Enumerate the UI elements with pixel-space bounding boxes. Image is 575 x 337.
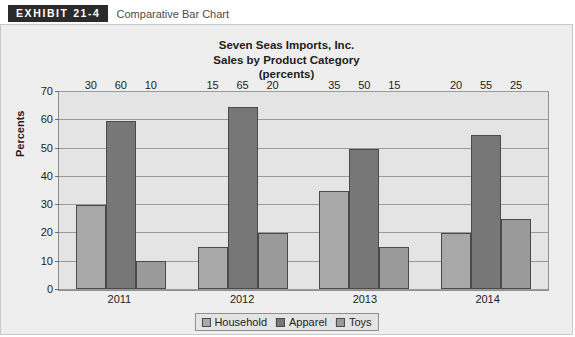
bar-slot: 10 — [136, 93, 166, 289]
plot-area-wrapper: 706050403020100 306010156520355015205525 — [58, 91, 549, 291]
y-tick-mark — [55, 232, 59, 233]
bar-group: 306010 — [60, 93, 182, 289]
legend-item[interactable]: Apparel — [276, 316, 327, 328]
bar[interactable]: 15 — [198, 247, 228, 289]
bar[interactable]: 55 — [471, 135, 501, 289]
bar[interactable]: 35 — [319, 191, 349, 289]
bar-slot: 20 — [441, 93, 471, 289]
bar[interactable]: 20 — [441, 233, 471, 289]
y-tick-label: 40 — [41, 170, 53, 182]
bar-value-label: 10 — [145, 79, 157, 91]
bar-value-label: 20 — [267, 79, 279, 91]
bar-group: 355015 — [304, 93, 426, 289]
x-tick-label: 2013 — [304, 293, 427, 305]
bar-value-label: 15 — [388, 79, 400, 91]
legend-item[interactable]: Household — [201, 316, 267, 328]
y-axis-title: Percents — [14, 111, 26, 157]
y-tick-label: 70 — [41, 85, 53, 97]
bar-value-label: 15 — [207, 79, 219, 91]
y-tick-label: 30 — [41, 198, 53, 210]
bar-slot: 25 — [501, 93, 531, 289]
bar[interactable]: 25 — [501, 219, 531, 289]
bar[interactable]: 20 — [258, 233, 288, 289]
bar-value-label: 30 — [85, 79, 97, 91]
bar-value-label: 25 — [510, 79, 522, 91]
legend-label: Household — [214, 316, 267, 328]
exhibit-tag: EXHIBIT 21-4 — [8, 5, 108, 22]
bar-value-label: 60 — [115, 79, 127, 91]
bar-slot: 60 — [106, 93, 136, 289]
bar[interactable]: 30 — [76, 205, 106, 289]
x-tick-label: 2012 — [181, 293, 304, 305]
bar-value-label: 55 — [480, 79, 492, 91]
chart-legend: HouseholdApparelToys — [194, 313, 378, 331]
bar-value-label: 50 — [358, 79, 370, 91]
x-tick-label: 2011 — [58, 293, 181, 305]
gridline: 0 — [59, 289, 548, 290]
legend-swatch — [336, 318, 345, 327]
bar-slot: 65 — [228, 93, 258, 289]
legend-swatch — [201, 318, 210, 327]
legend-label: Toys — [349, 316, 372, 328]
plot-area: 706050403020100 306010156520355015205525 — [58, 91, 549, 291]
legend-label: Apparel — [289, 316, 327, 328]
bar-group: 205525 — [425, 93, 547, 289]
y-tick-mark — [55, 261, 59, 262]
y-tick-label: 0 — [47, 283, 53, 295]
y-tick-mark — [55, 204, 59, 205]
bar-slot: 15 — [379, 93, 409, 289]
bar-slot: 20 — [258, 93, 288, 289]
y-tick-label: 50 — [41, 142, 53, 154]
y-tick-label: 60 — [41, 113, 53, 125]
y-tick-mark — [55, 91, 59, 92]
legend-swatch — [276, 318, 285, 327]
y-tick-label: 10 — [41, 255, 53, 267]
bar-slot: 35 — [319, 93, 349, 289]
chart-title-line-2: Sales by Product Category — [1, 53, 572, 68]
bar-group: 156520 — [182, 93, 304, 289]
bar-slot: 30 — [76, 93, 106, 289]
bar-slot: 50 — [349, 93, 379, 289]
chart-title-line-1: Seven Seas Imports, Inc. — [1, 38, 572, 53]
exhibit-header: EXHIBIT 21-4 Comparative Bar Chart — [8, 5, 229, 22]
legend-item[interactable]: Toys — [336, 316, 372, 328]
x-tick-label: 2014 — [426, 293, 549, 305]
screenshot-root: EXHIBIT 21-4 Comparative Bar Chart Seven… — [0, 0, 575, 337]
bar[interactable]: 50 — [349, 149, 379, 289]
figure-panel: Seven Seas Imports, Inc. Sales by Produc… — [0, 24, 573, 335]
y-tick-mark — [55, 148, 59, 149]
bar[interactable]: 65 — [228, 107, 258, 289]
y-tick-mark — [55, 119, 59, 120]
bar[interactable]: 60 — [106, 121, 136, 289]
bar-value-label: 35 — [328, 79, 340, 91]
bar-slot: 55 — [471, 93, 501, 289]
y-tick-mark — [55, 176, 59, 177]
bar-value-label: 20 — [450, 79, 462, 91]
chart-title: Seven Seas Imports, Inc. Sales by Produc… — [1, 38, 572, 82]
gridline: 70 — [59, 91, 548, 92]
y-tick-label: 20 — [41, 226, 53, 238]
y-tick-mark — [55, 289, 59, 290]
x-axis-labels: 2011201220132014 — [58, 293, 549, 305]
bar[interactable]: 15 — [379, 247, 409, 289]
bar[interactable]: 10 — [136, 261, 166, 289]
exhibit-caption: Comparative Bar Chart — [117, 8, 230, 20]
bar-value-label: 65 — [237, 79, 249, 91]
bar-slot: 15 — [198, 93, 228, 289]
bar-groups: 306010156520355015205525 — [60, 93, 547, 289]
